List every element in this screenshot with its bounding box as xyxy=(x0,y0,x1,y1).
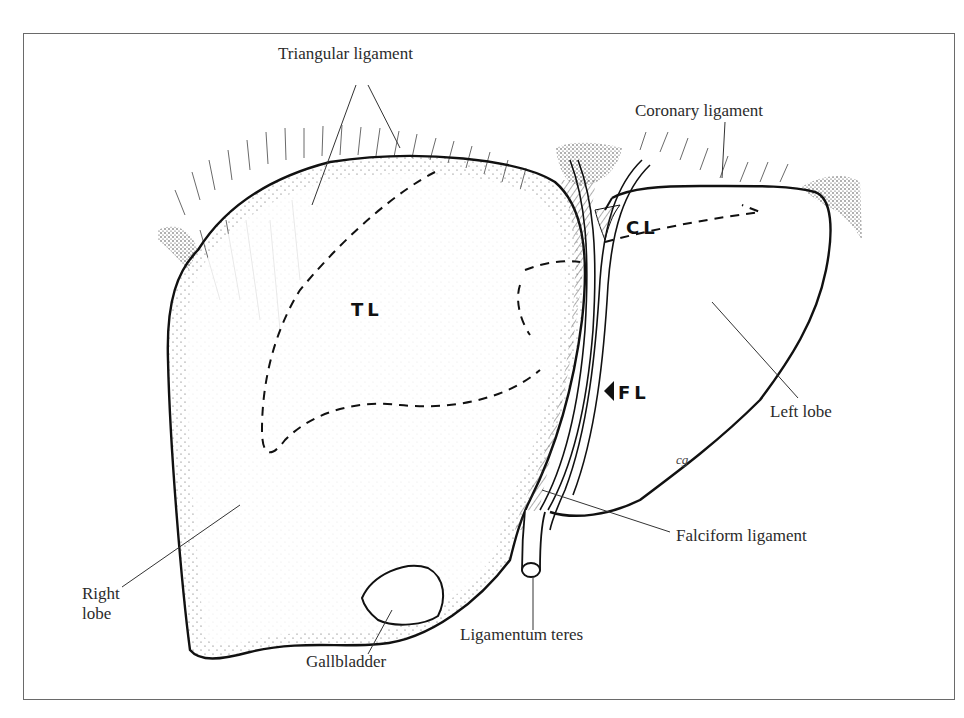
label-left-lobe: Left lobe xyxy=(770,402,832,422)
left-lobe xyxy=(550,186,831,516)
liver-illustration xyxy=(0,0,964,718)
label-falciform-ligament: Falciform ligament xyxy=(676,526,807,546)
label-gallbladder: Gallbladder xyxy=(306,652,386,672)
label-ligamentum-teres: Ligamentum teres xyxy=(460,625,583,645)
label-right-lobe-line2: lobe xyxy=(82,604,111,624)
abbr-fl: FL xyxy=(618,382,650,403)
label-coronary-ligament: Coronary ligament xyxy=(635,101,763,121)
label-right-lobe-line1: Right xyxy=(82,584,120,604)
abbr-tl: TL xyxy=(351,299,383,320)
label-triangular-ligament: Triangular ligament xyxy=(278,44,413,64)
artist-signature: cg xyxy=(676,450,688,470)
diaphragm-shading xyxy=(556,143,622,186)
abbr-cl: CL xyxy=(626,217,659,238)
falciform-arrow-icon xyxy=(604,381,614,401)
